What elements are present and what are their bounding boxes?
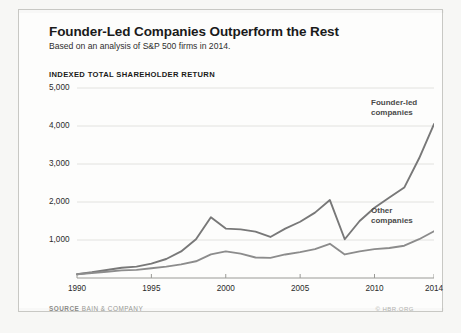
series-line-founder-led [77,124,434,274]
x-tick-label: 1990 [47,284,107,293]
source-note: SOURCE BAIN & COMPANY [49,305,143,312]
series-label-line: companies [371,108,417,118]
y-tick-label: 5,000 [49,83,70,92]
y-tick-label: 2,000 [49,197,70,206]
series-label-line: Founder-led [371,98,417,108]
x-tick-label: 2005 [270,284,330,293]
x-tick-label: 2014 [404,284,461,293]
source-label: SOURCE [49,305,79,312]
x-tick-label: 1995 [121,284,181,293]
y-axis-title: INDEXED TOTAL SHAREHOLDER RETURN [49,70,215,79]
source-name: BAIN & COMPANY [82,305,144,312]
scan-artifact-top [19,10,444,13]
publisher-credit: © HBR.ORG [375,306,414,312]
x-tick-label: 2000 [196,284,256,293]
series-label-line: Other [371,206,413,216]
chart-subtitle: Based on an analysis of S&P 500 firms in… [49,41,230,51]
screenshot-page: Founder-Led Companies Outperform the Res… [0,0,461,333]
y-tick-label: 3,000 [49,159,70,168]
y-tick-label: 4,000 [49,121,70,130]
x-tick-label: 2010 [345,284,405,293]
chart-card: Founder-Led Companies Outperform the Res… [18,9,443,312]
page-title: Founder-Led Companies Outperform the Res… [49,24,339,39]
series-label-line: companies [371,216,413,226]
series-label-other: Othercompanies [371,206,413,226]
series-label-founder-led: Founder-ledcompanies [371,98,417,118]
y-tick-label: 1,000 [49,235,70,244]
